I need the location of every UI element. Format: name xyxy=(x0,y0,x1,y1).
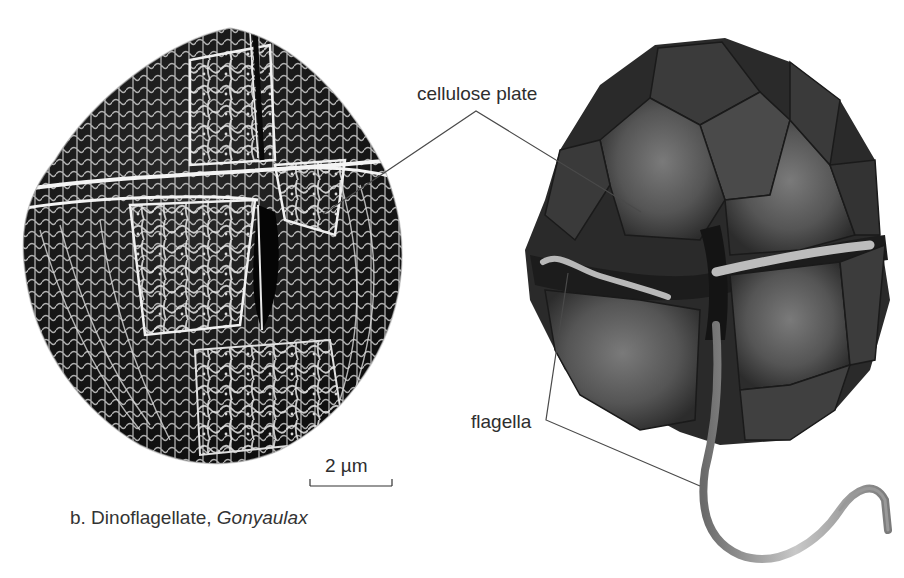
flagella-leader xyxy=(546,273,700,486)
flagella-label: flagella xyxy=(471,412,531,431)
caption-genus: Gonyaulax xyxy=(217,507,308,528)
caption-prefix: b. Dinoflagellate, xyxy=(70,507,217,528)
figure-caption: b. Dinoflagellate, Gonyaulax xyxy=(70,508,308,527)
cellulose-plate-label: cellulose plate xyxy=(417,84,537,103)
scale-bar xyxy=(310,479,392,486)
cellulose-plate-leader xyxy=(323,111,641,214)
scale-bar-label: 2 µm xyxy=(325,456,368,475)
